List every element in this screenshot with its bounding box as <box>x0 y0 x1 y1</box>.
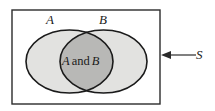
venn-diagram-figure: A B AandB S <box>0 0 215 111</box>
venn-diagram-graphic <box>0 0 215 111</box>
intersection-label-conjunction: and <box>70 54 92 68</box>
sample-space-callout-arrow <box>161 51 196 59</box>
sample-space-label: S <box>196 48 203 61</box>
intersection-label: AandB <box>62 55 99 68</box>
arrow-head-icon <box>161 51 171 59</box>
intersection-label-right: B <box>92 54 100 68</box>
intersection-label-left: A <box>62 54 70 68</box>
set-a-label: A <box>46 13 54 26</box>
set-b-label: B <box>99 13 107 26</box>
